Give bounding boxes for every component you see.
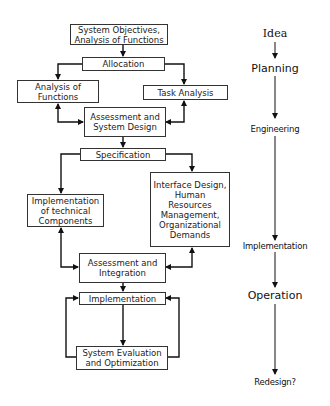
- phase-operation: Operation: [248, 289, 303, 302]
- box-implementation: Implementation: [79, 292, 166, 305]
- box-implementation-technical-components: Implementation of technical Components: [27, 194, 104, 227]
- box-analysis-of-functions: Analysis of Functions: [17, 80, 99, 103]
- box-assessment-integration: Assessment and Integration: [79, 253, 166, 283]
- lifecycle-diagram: System Objectives, Analysis of Functions…: [0, 0, 330, 406]
- box-assessment-system-design: Assessment and System Design: [84, 107, 166, 137]
- phase-engineering: Engineering: [251, 124, 300, 134]
- box-task-analysis: Task Analysis: [143, 85, 228, 100]
- box-interface-design: Interface Design, Human Resources Manage…: [150, 172, 230, 247]
- box-system-evaluation: System Evaluation and Optimization: [76, 346, 168, 370]
- box-system-objectives: System Objectives, Analysis of Functions: [70, 24, 168, 45]
- box-allocation: Allocation: [82, 57, 165, 71]
- phase-redesign: Redesign?: [254, 377, 296, 387]
- box-specification: Specification: [80, 148, 166, 161]
- phase-implementation: Implementation: [243, 241, 308, 251]
- phase-planning: Planning: [251, 62, 298, 75]
- phase-idea: Idea: [263, 27, 287, 40]
